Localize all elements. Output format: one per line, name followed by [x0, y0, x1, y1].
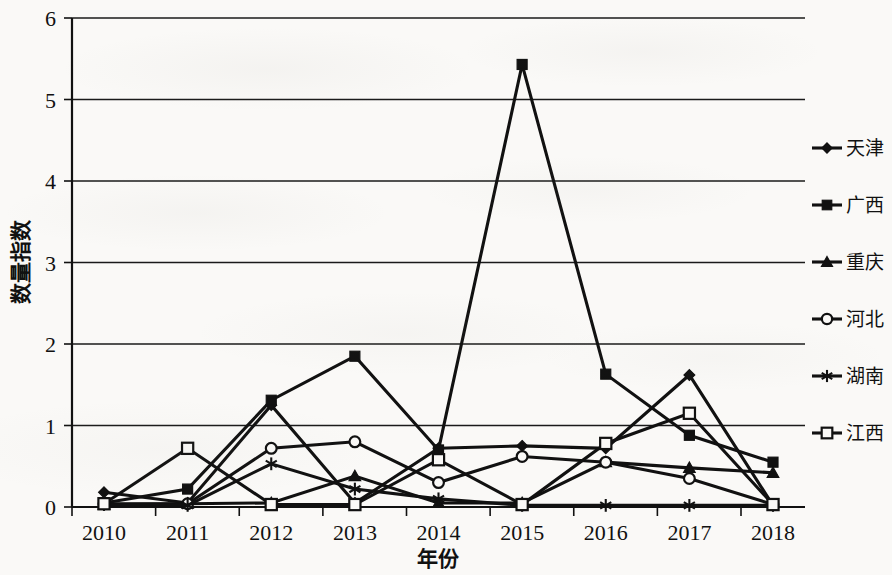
- legend-label: 湖南: [846, 365, 884, 387]
- data-point-marker: [822, 143, 832, 153]
- series-天津: [99, 370, 779, 511]
- legend-label: 广西: [846, 194, 884, 216]
- data-point-marker: [99, 487, 110, 498]
- x-tick-label: 2018: [751, 520, 795, 545]
- data-point-marker: [266, 443, 277, 454]
- data-point-marker: [822, 314, 832, 324]
- data-point-marker: [517, 499, 528, 510]
- x-tick-label: 2015: [500, 520, 544, 545]
- y-tick-label: 0: [45, 495, 56, 520]
- x-tick-label: 2011: [166, 520, 209, 545]
- data-point-marker: [98, 498, 109, 509]
- series-line: [104, 64, 773, 502]
- data-point-marker: [182, 443, 193, 454]
- x-tick-label: 2010: [82, 520, 126, 545]
- x-tick-label: 2012: [249, 520, 293, 545]
- y-tick-label: 5: [45, 88, 56, 113]
- x-tick-label: 2016: [584, 520, 628, 545]
- legend-item-重庆[interactable]: 重庆: [812, 251, 884, 273]
- y-gridlines: [72, 18, 805, 507]
- y-axis-ticks: 0123456: [45, 6, 72, 520]
- legend-label: 天津: [846, 137, 884, 159]
- data-point-marker: [684, 408, 695, 419]
- data-point-marker: [600, 457, 611, 468]
- data-point-marker: [822, 428, 833, 439]
- y-tick-label: 1: [45, 414, 56, 439]
- chart-canvas: 0123456 20102011201220132014201520162017…: [0, 0, 892, 575]
- y-tick-label: 3: [45, 251, 56, 276]
- data-point-marker: [517, 440, 528, 451]
- series-广西: [99, 59, 778, 507]
- data-point-marker: [350, 351, 360, 361]
- data-point-marker: [517, 451, 528, 462]
- x-axis-ticks: 201020112012201320142015201620172018: [72, 507, 795, 545]
- y-axis-title: 数量指数: [9, 219, 33, 304]
- data-point-marker: [684, 430, 694, 440]
- legend-label: 江西: [846, 422, 884, 444]
- data-point-marker: [266, 395, 276, 405]
- x-axis-title: 年份: [417, 547, 460, 571]
- data-point-marker: [349, 470, 361, 480]
- legend-item-湖南[interactable]: 湖南: [812, 365, 884, 387]
- data-point-marker: [266, 499, 277, 510]
- data-point-marker: [183, 484, 193, 494]
- legend-label: 重庆: [846, 251, 884, 273]
- y-tick-label: 6: [45, 6, 56, 31]
- legend-item-广西[interactable]: 广西: [812, 194, 884, 216]
- data-point-marker: [767, 499, 778, 510]
- legend-item-天津[interactable]: 天津: [812, 137, 884, 159]
- data-point-marker: [600, 438, 611, 449]
- chart-legend: 天津广西重庆河北湖南江西: [812, 137, 884, 444]
- data-point-marker: [822, 200, 832, 210]
- data-point-marker: [684, 473, 695, 484]
- data-point-marker: [768, 457, 778, 467]
- data-point-marker: [433, 454, 444, 465]
- data-point-marker: [349, 499, 360, 510]
- legend-label: 河北: [846, 308, 884, 330]
- data-point-marker: [433, 477, 444, 488]
- data-series-group: [98, 59, 779, 511]
- data-point-marker: [517, 59, 527, 69]
- line-chart: 0123456 20102011201220132014201520162017…: [0, 0, 892, 575]
- y-tick-label: 2: [45, 332, 56, 357]
- y-tick-label: 4: [45, 169, 56, 194]
- legend-item-江西[interactable]: 江西: [812, 422, 884, 444]
- x-tick-label: 2014: [417, 520, 461, 545]
- x-tick-label: 2013: [333, 520, 377, 545]
- data-point-marker: [349, 436, 360, 447]
- data-point-marker: [601, 369, 611, 379]
- x-tick-label: 2017: [667, 520, 711, 545]
- legend-item-河北[interactable]: 河北: [812, 308, 884, 330]
